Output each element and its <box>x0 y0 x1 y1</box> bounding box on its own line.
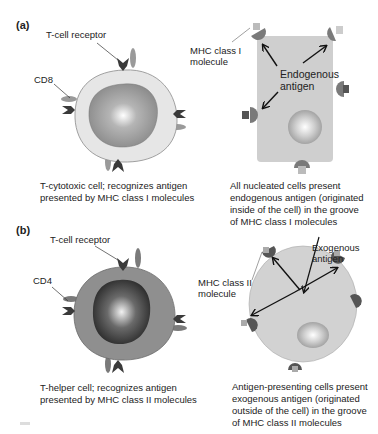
mhc1-label: MHC class Imolecule <box>190 45 241 67</box>
nucleated-cell <box>232 23 349 174</box>
tcr-label-b: T-cell receptor <box>50 234 110 245</box>
exogenous-antigen-label: Exogenousantigen <box>312 242 360 264</box>
panel-a-tag: (a) <box>16 19 29 31</box>
cd8-label: CD8 <box>34 74 53 85</box>
t-cytotoxic-cell <box>54 43 186 172</box>
caption-a-right: All nucleated cells presentendogenous an… <box>230 180 364 228</box>
cd4-label: CD4 <box>33 275 52 286</box>
caption-a-left: T-cytotoxic cell; recognizes antigenpres… <box>40 180 194 204</box>
caption-b-left: T-helper cell; recognizes antigenpresent… <box>40 382 197 406</box>
panel-b-tag: (b) <box>16 224 30 236</box>
tcr-icon <box>117 58 129 71</box>
tcr-label-a: T-cell receptor <box>46 29 106 40</box>
t-helper-cell <box>52 246 187 373</box>
endogenous-antigen-label: Endogenousantigen <box>280 68 339 92</box>
caption-b-right: Antigen-presenting cells presentexogenou… <box>232 381 368 429</box>
footer-artifact <box>20 422 30 425</box>
mhc2-label: MHC class IImolecule <box>198 277 252 299</box>
